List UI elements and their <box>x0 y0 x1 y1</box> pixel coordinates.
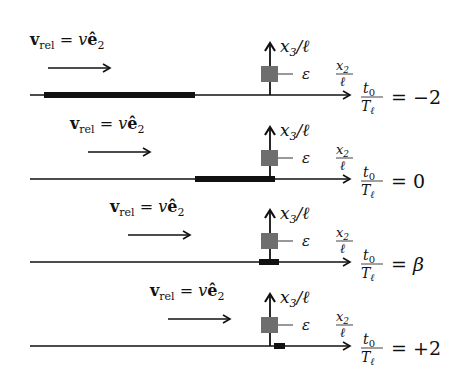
x2-axis-label-numerator: x2 <box>336 58 349 75</box>
obstacle-square <box>261 233 278 249</box>
velocity-label: vrel = vê2 <box>29 30 104 52</box>
x3-axis-label: x3/ℓ <box>280 287 309 310</box>
time-label-numerator: t0 <box>363 80 375 98</box>
moving-bar <box>44 92 195 98</box>
velocity-label: vrel = vê2 <box>149 281 224 303</box>
x3-axis-label: x3/ℓ <box>280 203 309 226</box>
x2-axis-label-numerator: x2 <box>336 142 349 159</box>
equals-sign: = <box>391 337 407 359</box>
epsilon-label: ε <box>302 149 310 167</box>
x2-axis-label-denominator: ℓ <box>340 74 346 89</box>
moving-bar <box>274 343 285 349</box>
diagram-canvas: εx3/ℓx2ℓt0Tℓ=−2vrel = vê2εx3/ℓx2ℓt0Tℓ=0v… <box>0 0 465 377</box>
panel-4: εx3/ℓx2ℓt0Tℓ=+2vrel = vê2 <box>30 281 441 367</box>
time-value: β <box>412 253 424 275</box>
moving-bar <box>195 176 275 182</box>
time-label-denominator: Tℓ <box>361 265 375 283</box>
x3-axis-label: x3/ℓ <box>280 36 309 59</box>
obstacle-square <box>261 150 278 166</box>
panel-1: εx3/ℓx2ℓt0Tℓ=−2vrel = vê2 <box>29 30 441 116</box>
panel-2: εx3/ℓx2ℓt0Tℓ=0vrel = vê2 <box>30 114 425 200</box>
time-label-numerator: t0 <box>363 331 375 349</box>
velocity-label: vrel = vê2 <box>69 114 144 136</box>
epsilon-label: ε <box>302 316 310 334</box>
x2-axis-label-numerator: x2 <box>336 225 349 242</box>
x2-axis-label-numerator: x2 <box>336 309 349 326</box>
equals-sign: = <box>391 86 407 108</box>
time-value: −2 <box>413 86 441 108</box>
x2-axis-label-denominator: ℓ <box>340 325 346 340</box>
x3-axis-label: x3/ℓ <box>280 120 309 143</box>
epsilon-label: ε <box>302 232 310 250</box>
obstacle-square <box>261 66 278 82</box>
x2-axis-label-denominator: ℓ <box>340 158 346 173</box>
time-label-denominator: Tℓ <box>361 182 375 200</box>
panels-group: εx3/ℓx2ℓt0Tℓ=−2vrel = vê2εx3/ℓx2ℓt0Tℓ=0v… <box>29 30 441 367</box>
time-value: 0 <box>413 170 425 192</box>
equals-sign: = <box>391 253 407 275</box>
time-label-denominator: Tℓ <box>361 349 375 367</box>
time-label-numerator: t0 <box>363 247 375 265</box>
velocity-label: vrel = vê2 <box>109 197 184 219</box>
time-value: +2 <box>413 337 441 359</box>
obstacle-square <box>261 317 278 333</box>
epsilon-label: ε <box>302 65 310 83</box>
time-label-denominator: Tℓ <box>361 98 375 116</box>
time-label-numerator: t0 <box>363 164 375 182</box>
panel-3: εx3/ℓx2ℓt0Tℓ=βvrel = vê2 <box>30 197 424 283</box>
equals-sign: = <box>391 170 407 192</box>
moving-bar <box>259 259 279 265</box>
x2-axis-label-denominator: ℓ <box>340 241 346 256</box>
